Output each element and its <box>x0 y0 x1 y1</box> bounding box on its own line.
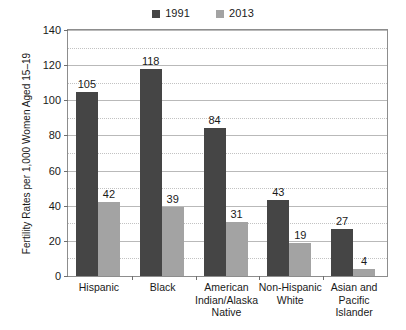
x-axis-category-labels: HispanicBlackAmericanIndian/AlaskaNative… <box>67 281 388 329</box>
plot-area: 020406080100120140105421183984314319274 <box>67 29 388 277</box>
x-axis-label-asian-and-pacific-islander: Asian andPacificIslander <box>318 281 390 319</box>
y-axis-tick-label: 40 <box>49 200 61 211</box>
fertility-rate-bar-chart: 1991 2013 Fertility Rates per 1,000 Wome… <box>0 0 406 330</box>
gridline-major <box>68 171 387 172</box>
bar-2013-hispanic: 42 <box>98 202 120 276</box>
bar-value-label: 31 <box>230 209 242 220</box>
x-axis-label-line: Native <box>191 306 263 319</box>
x-axis-label-line: Pacific <box>318 294 390 307</box>
x-axis-label-non-hispanic-white: Non-HispanicWhite <box>254 281 326 306</box>
gridline-major <box>68 100 387 101</box>
gridline-major <box>68 135 387 136</box>
bar-1991-non-hispanic-white: 43 <box>267 200 289 276</box>
x-axis-label-line: Islander <box>318 306 390 319</box>
y-axis-tick-label: 140 <box>43 25 61 36</box>
y-axis-tick-label: 100 <box>43 95 61 106</box>
x-axis-label-line: Non-Hispanic <box>254 281 326 294</box>
x-axis-label-line: White <box>254 294 326 307</box>
bar-value-label: 39 <box>167 194 179 205</box>
y-axis-title: Fertility Rates per 1,000 Women Aged 15–… <box>21 24 32 284</box>
bar-value-label: 4 <box>361 256 367 267</box>
chart-legend: 1991 2013 <box>0 8 406 19</box>
gridline-minor <box>68 83 387 84</box>
y-axis-tick-label: 80 <box>49 130 61 141</box>
x-axis-label-line: American <box>191 281 263 294</box>
bar-2013-black: 39 <box>162 207 184 276</box>
y-axis-tick-label: 0 <box>55 271 61 282</box>
gridline-major <box>68 30 387 31</box>
plot-inner: 020406080100120140105421183984314319274 <box>68 30 387 276</box>
x-axis-tick <box>196 276 197 280</box>
bar-value-label: 27 <box>336 216 348 227</box>
y-axis-tick <box>64 30 68 31</box>
y-axis-tick <box>64 206 68 207</box>
bar-value-label: 118 <box>142 56 160 67</box>
gridline-minor <box>68 188 387 189</box>
bar-2013-non-hispanic-white: 19 <box>289 243 311 276</box>
x-axis-label-american-indian-alaska-native: AmericanIndian/AlaskaNative <box>191 281 263 319</box>
x-axis-label-line: Indian/Alaska <box>191 294 263 307</box>
bar-2013-asian-and-pacific-islander: 4 <box>353 269 375 276</box>
x-axis-tick <box>259 276 260 280</box>
gridline-minor <box>68 153 387 154</box>
legend-entry-2013: 2013 <box>216 8 254 19</box>
bar-value-label: 43 <box>272 187 284 198</box>
x-axis-label-line: Hispanic <box>63 281 135 294</box>
y-axis-tick <box>64 276 68 277</box>
x-axis-label-black: Black <box>127 281 199 294</box>
gridline-major <box>68 65 387 66</box>
gridline-minor <box>68 118 387 119</box>
bar-1991-black: 118 <box>140 69 162 276</box>
bar-1991-hispanic: 105 <box>76 92 98 277</box>
y-axis-tick-label: 120 <box>43 60 61 71</box>
legend-swatch-1991 <box>152 10 160 18</box>
bar-1991-asian-and-pacific-islander: 27 <box>331 229 353 276</box>
x-axis-tick <box>323 276 324 280</box>
y-axis-tick <box>64 100 68 101</box>
bar-1991-american-indian-alaska-native: 84 <box>204 128 226 276</box>
bar-value-label: 19 <box>294 230 306 241</box>
x-axis-tick <box>132 276 133 280</box>
y-axis-tick <box>64 241 68 242</box>
y-axis-tick <box>64 65 68 66</box>
y-axis-tick <box>64 171 68 172</box>
y-axis-tick <box>64 135 68 136</box>
x-axis-label-hispanic: Hispanic <box>63 281 135 294</box>
y-axis-tick-label: 20 <box>49 235 61 246</box>
y-axis-tick-label: 60 <box>49 165 61 176</box>
x-axis-label-line: Asian and <box>318 281 390 294</box>
gridline-minor <box>68 48 387 49</box>
legend-swatch-2013 <box>216 10 224 18</box>
bar-2013-american-indian-alaska-native: 31 <box>226 222 248 276</box>
bar-value-label: 42 <box>103 189 115 200</box>
x-axis-label-line: Black <box>127 281 199 294</box>
bar-value-label: 84 <box>208 115 220 126</box>
legend-label-2013: 2013 <box>229 8 254 19</box>
bar-value-label: 105 <box>78 79 96 90</box>
legend-entry-1991: 1991 <box>152 8 190 19</box>
legend-label-1991: 1991 <box>165 8 190 19</box>
